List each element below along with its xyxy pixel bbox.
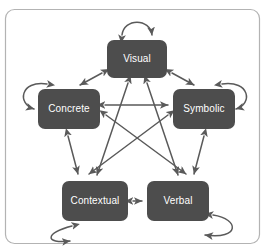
- node-symbolic-label: Symbolic: [183, 104, 224, 114]
- node-verbal-label: Verbal: [164, 196, 193, 206]
- node-contextual-label: Contextual: [71, 196, 120, 206]
- node-concrete[interactable]: Concrete: [38, 89, 100, 129]
- node-visual[interactable]: Visual: [107, 40, 167, 78]
- node-contextual[interactable]: Contextual: [62, 181, 128, 221]
- node-symbolic[interactable]: Symbolic: [173, 89, 235, 129]
- node-visual-label: Visual: [123, 54, 151, 64]
- diagram-canvas: Visual Concrete Symbolic Contextual Verb…: [0, 0, 265, 252]
- node-concrete-label: Concrete: [48, 104, 89, 114]
- node-verbal[interactable]: Verbal: [147, 181, 209, 221]
